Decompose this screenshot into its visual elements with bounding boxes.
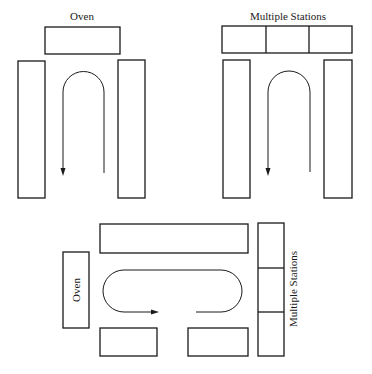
arrowhead-icon bbox=[266, 168, 271, 176]
loop-flow-arrow bbox=[103, 270, 242, 312]
multiple-stations-column bbox=[258, 223, 284, 356]
left-workstation bbox=[18, 61, 45, 198]
right-workstation bbox=[324, 60, 352, 198]
right-workstation bbox=[118, 60, 145, 198]
layout-diagram: Oven Multiple Stations Oven Multiple Sta… bbox=[0, 0, 372, 374]
u-layout-oven: Oven bbox=[18, 10, 145, 198]
u-flow-arrow bbox=[63, 72, 104, 174]
stations-label-top: Multiple Stations bbox=[250, 10, 326, 22]
left-workstation bbox=[223, 60, 250, 198]
stations-label-bottom: Multiple Stations bbox=[287, 251, 299, 327]
u-layout-multiple-stations: Multiple Stations bbox=[222, 10, 352, 198]
multiple-stations-bar bbox=[222, 26, 352, 53]
oven-label-top: Oven bbox=[70, 10, 94, 22]
bottom-right-workstation bbox=[188, 328, 248, 356]
arrowhead-icon bbox=[151, 310, 159, 315]
bottom-left-workstation bbox=[100, 328, 157, 356]
loop-layout: Oven Multiple Stations bbox=[63, 223, 299, 356]
u-flow-arrow bbox=[268, 71, 310, 172]
top-workstation bbox=[100, 224, 248, 253]
arrowhead-icon bbox=[61, 168, 66, 176]
oven-label-bottom: Oven bbox=[70, 278, 82, 302]
oven-station bbox=[45, 27, 120, 54]
